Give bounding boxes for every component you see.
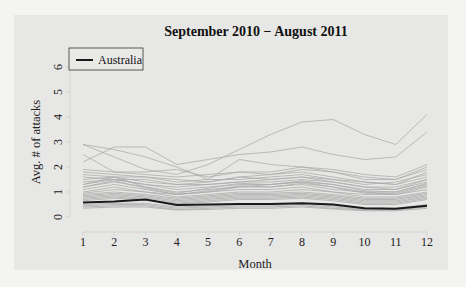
y-tick-label: 0 — [51, 214, 65, 220]
legend-label-australia: Australia — [98, 53, 143, 67]
legend: Australia — [69, 48, 143, 70]
x-axis: 123456789101112 — [80, 232, 433, 249]
x-axis-label: Month — [238, 257, 272, 271]
y-tick-label: 5 — [51, 89, 65, 95]
x-tick-label: 11 — [390, 235, 402, 249]
x-tick-label: 6 — [236, 235, 242, 249]
y-tick-label: 1 — [51, 189, 65, 195]
y-tick-label: 2 — [51, 164, 65, 170]
x-tick-label: 3 — [143, 235, 149, 249]
background-series-line — [83, 145, 427, 180]
background-series-line — [83, 132, 427, 165]
background-series-line — [83, 115, 427, 175]
x-tick-label: 9 — [330, 235, 336, 249]
x-tick-label: 7 — [268, 235, 274, 249]
y-tick-label: 3 — [51, 139, 65, 145]
line-chart: September 2010 − August 2011 0123456 123… — [0, 0, 466, 287]
x-tick-label: 5 — [205, 235, 211, 249]
y-axis-label: Avg. # of attacks — [29, 100, 43, 185]
y-tick-label: 6 — [51, 64, 65, 70]
x-tick-label: 4 — [174, 235, 180, 249]
x-tick-label: 2 — [111, 235, 117, 249]
x-tick-label: 1 — [80, 235, 86, 249]
x-tick-label: 8 — [299, 235, 305, 249]
x-tick-label: 10 — [358, 235, 370, 249]
y-tick-label: 4 — [51, 114, 65, 120]
chart-title: September 2010 − August 2011 — [164, 24, 348, 39]
x-tick-label: 12 — [421, 235, 433, 249]
background-series-lines — [83, 115, 427, 211]
y-axis: 0123456 — [51, 64, 70, 220]
